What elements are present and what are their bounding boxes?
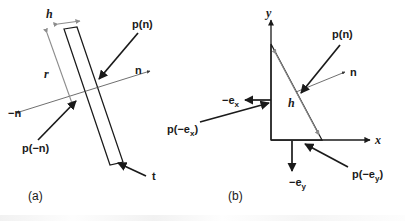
y-axis-label: y <box>264 6 272 20</box>
normal-axis-line <box>16 71 150 113</box>
traction-minus-ex-label: p(−ex) <box>167 123 198 138</box>
hypotenuse-dimension-arrow <box>276 54 319 135</box>
panel-a-caption: (a) <box>28 189 43 203</box>
slab-shape <box>64 27 123 165</box>
traction-minus-ey-label: p(−ey) <box>352 168 383 183</box>
normal-label-b: n <box>350 66 357 78</box>
basis-minus-y-label: −ey <box>289 176 307 191</box>
thickness-label: h <box>46 7 53 21</box>
figure-svg: h r p(n) n −n p(−n) t (a) <box>0 0 405 221</box>
length-label: r <box>44 67 49 81</box>
traction-n-label-b: p(n) <box>332 28 353 40</box>
thickness-dimension-arrow <box>58 21 80 24</box>
tangent-label: t <box>152 170 156 182</box>
x-axis-label: x <box>374 133 381 147</box>
traction-minus-label: p(−n) <box>22 142 50 154</box>
traction-plus-arrow <box>99 33 138 79</box>
tangent-arrow <box>118 163 146 176</box>
panel-b-group: y x h p(n) n −ex −ey p(−ex) p(−ey) (b) <box>167 6 383 203</box>
normal-minus-label: −n <box>8 107 21 119</box>
traction-plus-label: p(n) <box>132 18 153 30</box>
panel-b-caption: (b) <box>228 189 243 203</box>
hypotenuse-label: h <box>288 96 295 110</box>
basis-minus-x-label: −ex <box>222 94 240 109</box>
traction-minus-arrow <box>38 101 76 140</box>
figure-container: h r p(n) n −n p(−n) t (a) <box>0 0 405 221</box>
normal-plus-label: n <box>135 64 142 76</box>
traction-n-arrow-b <box>301 45 340 93</box>
traction-minus-ey-arrow <box>305 144 348 167</box>
panel-a-group: h r p(n) n −n p(−n) t (a) <box>8 7 156 203</box>
